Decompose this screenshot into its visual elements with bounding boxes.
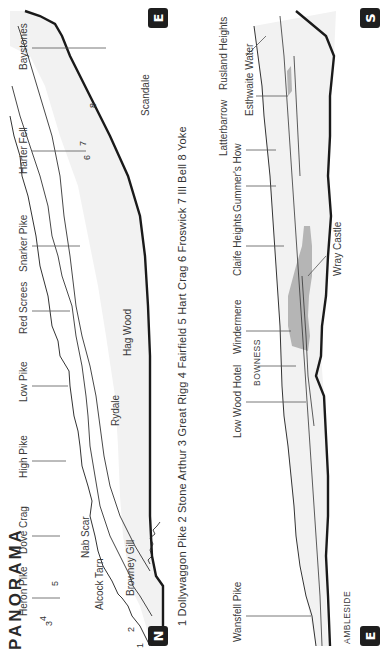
label-heron-pike: Heron Pike: [18, 567, 29, 616]
peak-number-7: 7: [78, 141, 88, 146]
peak-legend: 1 Dollywaggon Pike 2 Stone Arthur 3 Grea…: [176, 26, 188, 626]
label-baystones: Baystones: [18, 23, 29, 70]
label-low-wood-hotel: Low Wood Hotel: [232, 365, 243, 438]
label-windermere: Windermere: [232, 300, 243, 354]
label-high-pike: High Pike: [18, 435, 29, 478]
compass-badge-east-lower: E: [360, 626, 380, 646]
peak-number-3: 3: [44, 621, 54, 626]
label-snarker-pike: Snarker Pike: [18, 215, 29, 272]
peak-number-8: 8: [88, 103, 98, 108]
upper-panorama: Heron Pike Dove Crag High Pike Low Pike …: [0, 0, 170, 656]
panorama-page: PANORAMA: [0, 0, 384, 656]
label-scandale: Scandale: [140, 74, 151, 116]
compass-badge-north: N: [148, 626, 168, 646]
label-low-pike: Low Pike: [18, 361, 29, 402]
label-rydale: Rydale: [110, 395, 121, 426]
compass-badge-east: E: [148, 8, 168, 28]
label-wansfell-pike: Wansfell Pike: [232, 582, 243, 642]
peak-number-6: 6: [82, 155, 92, 160]
label-alcock-tarn: Alcock Tarn: [94, 558, 105, 610]
peak-number-4: 4: [38, 616, 48, 621]
peak-number-2: 2: [126, 627, 136, 632]
label-claife-heights: Claife Heights: [232, 214, 243, 276]
label-dove-crag: Dove Crag: [18, 506, 29, 554]
peak-number-1: 1: [135, 643, 145, 648]
label-nab-scar: Nab Scar: [80, 516, 91, 558]
label-latterbarrow: Latterbarrow: [218, 100, 229, 156]
label-browney-gill: Browney Gill: [125, 540, 136, 596]
label-hag-wood: Hag Wood: [122, 309, 133, 356]
lower-panorama: Wansfell Pike Low Wood Hotel Windermere …: [196, 0, 384, 656]
label-bowness: BOWNESS: [252, 339, 262, 386]
label-rusland-heights: Rusland Heights: [218, 17, 229, 90]
label-harter-fell: Harter Fell: [18, 127, 29, 174]
label-wray-castle: Wray Castle: [332, 222, 343, 276]
label-gummers-how: Gummer's How: [232, 143, 243, 212]
compass-badge-south: S: [360, 8, 380, 28]
peak-number-5: 5: [50, 581, 60, 586]
label-red-screes: Red Screes: [18, 282, 29, 334]
label-ambleside: AMBLESIDE: [342, 591, 352, 644]
lower-panorama-drawing: [196, 0, 384, 656]
label-esthwaite-water: Esthwaite Water: [244, 44, 255, 116]
